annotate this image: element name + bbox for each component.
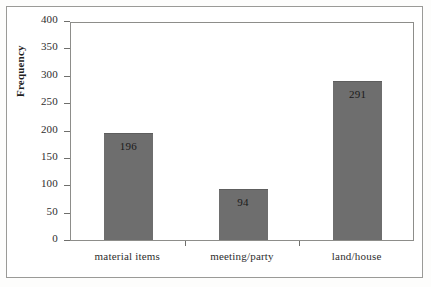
y-axis-tick-label: 50 bbox=[12, 206, 58, 217]
bar-value-label: 196 bbox=[104, 141, 153, 152]
bar: 94 bbox=[219, 189, 268, 240]
bar-value-label: 291 bbox=[333, 89, 382, 100]
y-axis-title: Frequency bbox=[14, 81, 26, 97]
y-axis-tick-label: 250 bbox=[12, 96, 58, 107]
plot-area: 19694291 bbox=[70, 22, 414, 241]
bar: 291 bbox=[333, 81, 382, 240]
x-axis-category-label: material items bbox=[70, 250, 185, 262]
x-axis-tick-mark bbox=[185, 241, 186, 246]
y-axis-tick-label: 300 bbox=[12, 69, 58, 80]
bar: 196 bbox=[104, 133, 153, 240]
bar-value-label: 94 bbox=[219, 197, 268, 208]
x-axis-tick-mark bbox=[299, 241, 300, 246]
y-axis-tick-label: 400 bbox=[12, 14, 58, 25]
x-axis-category-label: meeting/party bbox=[185, 250, 300, 262]
y-axis-tick-label: 350 bbox=[12, 41, 58, 52]
bar-chart-figure: Frequency 400350300250200150100500 19694… bbox=[0, 0, 431, 287]
y-axis-tick-label: 0 bbox=[12, 233, 58, 244]
x-axis-category-label: land/house bbox=[299, 250, 414, 262]
y-axis-tick-label: 200 bbox=[12, 124, 58, 135]
y-axis-tick-label: 150 bbox=[12, 151, 58, 162]
y-axis-tick-label: 100 bbox=[12, 178, 58, 189]
